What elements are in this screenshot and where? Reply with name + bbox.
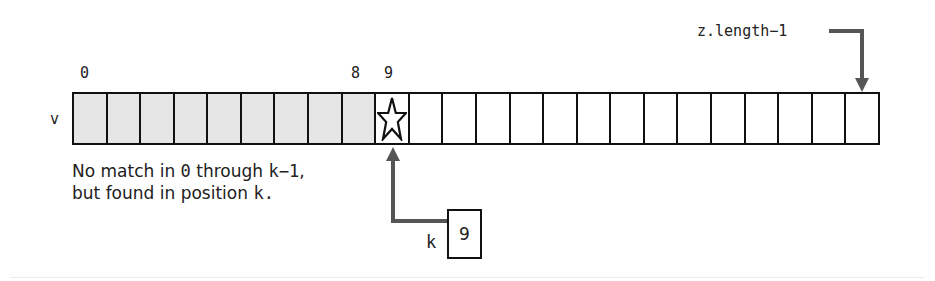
variable-k-label: k bbox=[426, 232, 436, 252]
caption-line-1: No match in 0 through k−1, bbox=[72, 160, 305, 182]
caption-text: but found in position bbox=[72, 183, 253, 203]
k-pointer-arrow-icon bbox=[386, 147, 448, 221]
caption-text: through bbox=[191, 161, 269, 181]
caption-code: k−1 bbox=[268, 161, 299, 181]
caption-code: 0 bbox=[181, 161, 191, 181]
caption: No match in 0 through k−1, but found in … bbox=[72, 160, 305, 204]
caption-text: . bbox=[264, 183, 274, 203]
end-arrow-icon bbox=[829, 31, 869, 92]
caption-text: No match in bbox=[72, 161, 181, 181]
variable-k-value: 9 bbox=[459, 224, 470, 244]
variable-k-box: 9 bbox=[447, 209, 482, 259]
caption-code: k bbox=[253, 183, 263, 203]
caption-line-2: but found in position k. bbox=[72, 182, 305, 204]
bottom-divider bbox=[10, 277, 925, 278]
caption-text: , bbox=[299, 161, 304, 181]
